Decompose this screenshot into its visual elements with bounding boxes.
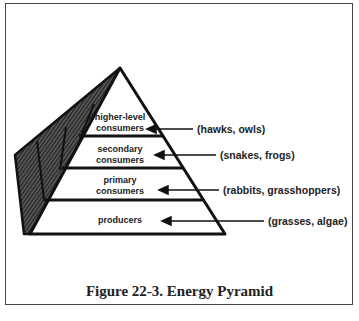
example-higher: (hawks, owls) [197, 123, 265, 135]
tier-label-higher-1: higher-level [95, 112, 146, 122]
tier-label-secondary-1: secondary [97, 144, 142, 154]
example-primary: (rabbits, grasshoppers) [223, 184, 340, 196]
tier-examples: (hawks, owls) (snakes, frogs) (rabbits, … [197, 123, 347, 227]
tier-label-producers: producers [98, 215, 142, 225]
example-secondary: (snakes, frogs) [220, 149, 295, 161]
figure-caption: Figure 22-3. Energy Pyramid [0, 283, 359, 300]
tier-label-primary-1: primary [103, 175, 136, 185]
energy-pyramid-diagram: higher-level consumers secondary consume… [0, 0, 359, 321]
tier-label-primary-2: consumers [96, 186, 144, 196]
tier-label-higher-2: consumers [96, 123, 144, 133]
example-producers: (grasses, algae) [268, 215, 347, 227]
tier-label-secondary-2: consumers [96, 155, 144, 165]
